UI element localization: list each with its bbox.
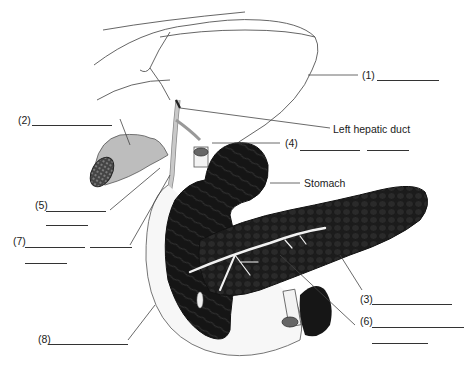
answer-blank-3[interactable]: [372, 304, 452, 305]
label-stomach: Stomach: [304, 177, 345, 189]
anatomy-illustration: [0, 0, 476, 368]
label-7: (7): [13, 235, 26, 247]
answer-blank-1[interactable]: [377, 80, 439, 81]
label-5: (5): [35, 199, 48, 211]
answer-blank-2[interactable]: [32, 125, 112, 126]
answer-blank-7a[interactable]: [25, 247, 85, 248]
label-left-hepatic-duct: Left hepatic duct: [333, 123, 410, 135]
answer-blank-5b[interactable]: [46, 225, 88, 226]
label-4: (4): [285, 137, 298, 149]
label-6: (6): [360, 315, 373, 327]
answer-blank-6a[interactable]: [372, 327, 464, 328]
answer-blank-4a[interactable]: [300, 150, 360, 151]
answer-blank-6b[interactable]: [372, 343, 428, 344]
label-2: (2): [18, 114, 31, 126]
answer-blank-7c[interactable]: [25, 263, 67, 264]
gallbladder: [85, 134, 168, 190]
ampulla: [197, 292, 203, 308]
label-1: (1): [362, 69, 375, 81]
answer-blank-4b[interactable]: [367, 150, 409, 151]
answer-blank-7b[interactable]: [90, 247, 132, 248]
answer-blank-5a[interactable]: [46, 211, 106, 212]
kidney: [300, 286, 332, 336]
answer-blank-8[interactable]: [48, 344, 128, 345]
label-3: (3): [360, 293, 373, 305]
